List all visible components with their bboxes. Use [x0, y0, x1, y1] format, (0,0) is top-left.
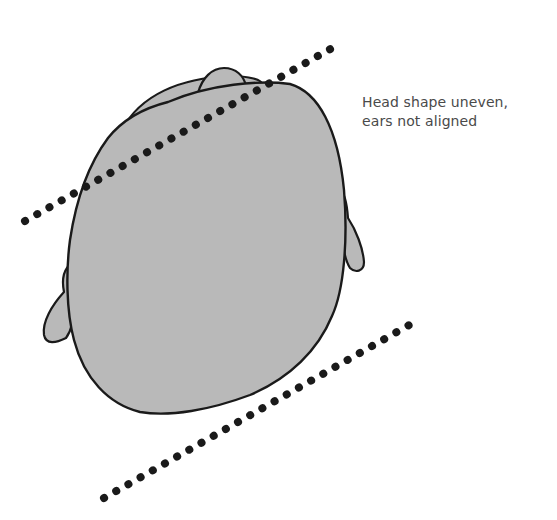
caption-line-1: Head shape uneven, — [362, 93, 508, 112]
head-shape-diagram: Head shape uneven, ears not aligned — [0, 0, 557, 520]
caption-line-2: ears not aligned — [362, 112, 508, 131]
head-outline — [67, 83, 345, 414]
diagram-caption: Head shape uneven, ears not aligned — [362, 93, 508, 131]
